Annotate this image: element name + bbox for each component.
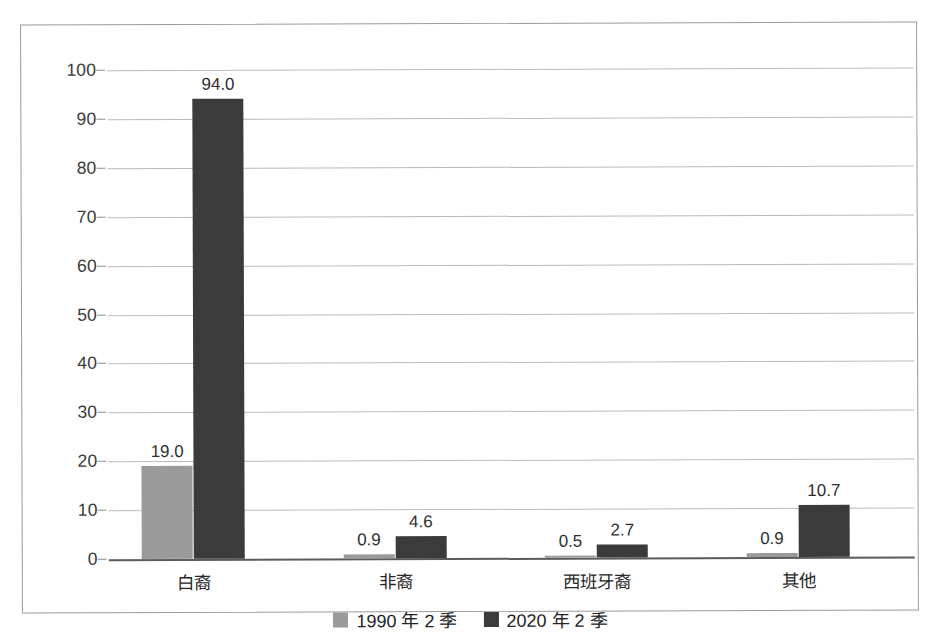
bar[interactable]: 0.9 (343, 554, 394, 559)
x-axis-category-label: 西班牙裔 (563, 567, 631, 592)
legend-label: 1990 年 2 季 (356, 606, 457, 632)
bar-group: 0.910.7其他 (745, 68, 850, 557)
bar[interactable]: 0.5 (545, 555, 596, 558)
y-axis-tick-mark (97, 412, 106, 413)
chart-frame: 0102030405060708090100 19.094.0白裔0.94.6非… (20, 22, 919, 614)
legend-swatch-icon (483, 611, 498, 626)
y-axis-tick-mark (98, 559, 107, 560)
bar-value-label: 4.6 (409, 512, 433, 532)
y-axis-tick-mark (98, 510, 107, 511)
x-axis-category-label: 其他 (782, 567, 816, 592)
y-axis-tick-label: 90 (76, 109, 96, 130)
y-axis-tick-label: 70 (77, 206, 97, 227)
bar[interactable]: 10.7 (798, 504, 849, 556)
bar-group: 0.94.6非裔 (342, 69, 447, 558)
y-axis-tick-mark (97, 265, 106, 266)
legend-item[interactable]: 1990 年 2 季 (333, 606, 457, 632)
y-axis-tick-mark (97, 314, 106, 315)
y-axis-tick-label: 40 (77, 353, 97, 374)
y-axis-tick-mark (97, 167, 106, 168)
y-axis-tick-mark (97, 363, 106, 364)
bar-value-label: 0.9 (357, 530, 381, 550)
y-axis-tick-mark (97, 216, 106, 217)
bar[interactable]: 2.7 (597, 544, 648, 557)
bar-value-label: 2.7 (611, 520, 635, 540)
y-axis-tick-label: 80 (77, 157, 97, 178)
bar[interactable]: 19.0 (142, 466, 193, 559)
legend-swatch-icon (333, 612, 348, 627)
bar-value-label: 10.7 (807, 481, 840, 501)
y-axis-tick-mark (97, 461, 106, 462)
bar-group: 19.094.0白裔 (140, 70, 245, 559)
plot-area: 0102030405060708090100 19.094.0白裔0.94.6非… (107, 68, 915, 560)
y-axis-tick-label: 60 (77, 255, 97, 276)
bar[interactable]: 4.6 (395, 536, 446, 559)
bar[interactable]: 0.9 (746, 553, 797, 558)
bar-value-label: 0.9 (760, 529, 784, 549)
x-axis-category-label: 非裔 (379, 568, 413, 593)
y-axis-tick-label: 20 (78, 451, 98, 472)
bar-value-label: 19.0 (151, 442, 184, 462)
y-axis-tick-label: 10 (78, 500, 98, 521)
bar[interactable]: 94.0 (193, 99, 245, 559)
y-axis-tick-label: 0 (88, 549, 98, 570)
legend-item[interactable]: 2020 年 2 季 (483, 606, 607, 632)
y-axis-tick-label: 100 (66, 60, 96, 81)
legend-label: 2020 年 2 季 (506, 606, 607, 632)
x-axis-category-label: 白裔 (177, 569, 211, 594)
y-axis-tick-mark (96, 119, 105, 120)
bar-value-label: 94.0 (201, 75, 234, 95)
bar-value-label: 0.5 (559, 531, 583, 551)
y-axis-tick-label: 50 (77, 304, 97, 325)
y-axis-tick-mark (96, 70, 105, 71)
bar-group: 0.52.7西班牙裔 (543, 68, 648, 557)
y-axis-tick-label: 30 (77, 402, 97, 423)
chart-legend: 1990 年 2 季2020 年 2 季 (23, 605, 918, 634)
